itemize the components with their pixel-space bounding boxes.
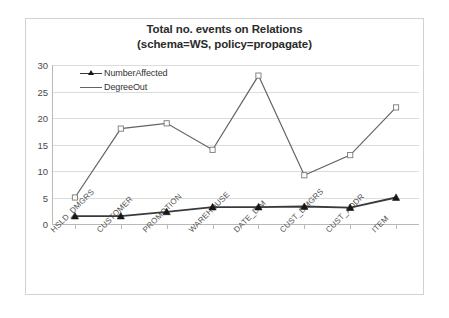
datapoint-degreeout-7 [393, 105, 398, 110]
y-tick-label-25: 25 [8, 86, 48, 97]
y-tick-label-30: 30 [8, 60, 48, 71]
legend-label-numberaffected: NumberAffected [104, 68, 167, 78]
datapoint-degreeout-1 [118, 126, 123, 131]
y-tick-label-15: 15 [8, 139, 48, 150]
y-tick-label-10: 10 [8, 166, 48, 177]
y-axis-tick-labels: 051015202530 [0, 65, 48, 224]
datapoint-degreeout-5 [302, 173, 307, 178]
chart-title-line-1: Total no. events on Relations [25, 22, 424, 37]
legend-item-numberaffected: NumberAffected [80, 66, 167, 80]
datapoint-degreeout-2 [164, 121, 169, 126]
legend-marker-line-icon [80, 82, 102, 92]
chart-title: Total no. events on Relations (schema=WS… [25, 22, 424, 52]
datapoint-degreeout-6 [348, 153, 353, 158]
line-numberaffected [75, 198, 396, 217]
chart-title-line-2: (schema=WS, policy=propagate) [25, 37, 424, 52]
legend-marker-triangle-icon [80, 68, 102, 78]
datapoint-degreeout-0 [72, 195, 77, 200]
legend-label-degreeout: DegreeOut [104, 82, 147, 92]
datapoint-degreeout-4 [256, 73, 261, 78]
x-axis-tick-labels: HSLD_DMGRSCUSTOMERPROMOTIONWAREHOUSEDATE… [52, 228, 419, 288]
legend-item-degreeout: DegreeOut [80, 80, 167, 94]
y-tick-label-20: 20 [8, 113, 48, 124]
datapoint-degreeout-3 [210, 147, 215, 152]
chart-legend: NumberAffected DegreeOut [80, 66, 167, 94]
y-tick-label-5: 5 [8, 192, 48, 203]
y-tick-label-0: 0 [8, 219, 48, 230]
